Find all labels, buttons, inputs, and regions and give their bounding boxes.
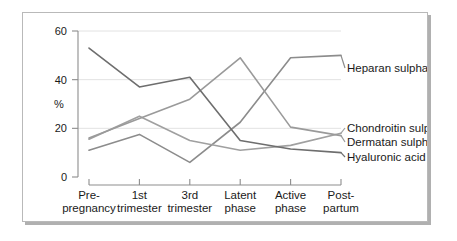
cat-label-4-line2: phase: [275, 202, 306, 214]
leader-line-chondroitin-sulphates: [341, 128, 345, 133]
cat-label-0-line1: Pre-: [78, 189, 100, 201]
leader-line-hyaluronic-acid: [341, 153, 345, 157]
y-tick-label-40: 40: [55, 74, 67, 86]
cat-label-5-line2: partum: [323, 202, 359, 214]
y-tick-label-20: 20: [55, 122, 67, 134]
cat-label-4-line1: Active: [275, 189, 306, 201]
figure-frame: 60 40 20 0 % Pre- pregnancy 1st trimeste…: [22, 12, 428, 222]
cat-label-2-line2: trimester: [167, 202, 212, 214]
line-chart: 60 40 20 0 % Pre- pregnancy 1st trimeste…: [23, 13, 427, 221]
series-line-chondroitin-sulphates: [89, 116, 341, 150]
series-line-dermatan-sulphate: [89, 58, 341, 138]
series-line-hyaluronic-acid: [89, 48, 341, 153]
legend-label-chondroitin-sulphates: Chondroitin sulphates: [347, 122, 427, 134]
y-axis-title: %: [54, 98, 64, 110]
leader-line-heparan-sulphate: [341, 55, 345, 68]
legend-label-heparan-sulphate: Heparan sulphate: [347, 62, 427, 74]
cat-label-1-line2: trimester: [117, 202, 162, 214]
gridlines: [78, 31, 341, 128]
series-leader-lines: [341, 55, 345, 157]
legend: Heparan sulphate Chondroitin sulphates D…: [347, 62, 427, 163]
legend-label-dermatan-sulphate: Dermatan sulphate: [347, 136, 427, 148]
legend-label-hyaluronic-acid: Hyaluronic acid: [347, 151, 426, 163]
cat-label-0-line2: pregnancy: [62, 202, 116, 214]
y-tick-label-60: 60: [55, 25, 67, 37]
x-axis: [89, 179, 341, 185]
cat-label-5-line1: Post-: [328, 189, 355, 201]
leader-line-dermatan-sulphate: [341, 136, 345, 142]
cat-label-3-line2: phase: [225, 202, 256, 214]
cat-label-1-line1: 1st: [132, 189, 148, 201]
cat-label-2-line1: 3rd: [181, 189, 198, 201]
series-lines: [89, 48, 341, 162]
y-axis: 60 40 20 0 %: [54, 25, 78, 183]
x-axis-category-labels: Pre- pregnancy 1st trimester 3rd trimest…: [62, 189, 359, 214]
y-tick-label-0: 0: [61, 171, 67, 183]
cat-label-3-line1: Latent: [224, 189, 257, 201]
